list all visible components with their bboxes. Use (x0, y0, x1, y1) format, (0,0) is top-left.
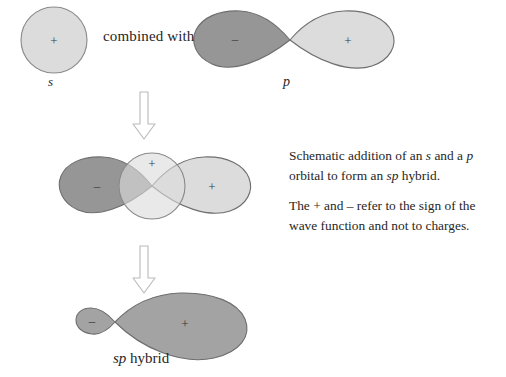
p-orbital-left-lobe (194, 11, 290, 67)
combined-with-label: combined with (103, 28, 195, 45)
sp-hybrid-minus-sign: – (88, 313, 96, 328)
description-italic-p: p (466, 148, 473, 163)
p-orbital-minus-sign: – (231, 31, 239, 46)
sp-hybrid-plus-sign: + (181, 316, 188, 331)
note-paragraph: The + and – refer to the sign of the wav… (289, 196, 504, 235)
combined-s-plus-sign: + (148, 156, 155, 171)
description-part3: orbital to form an (289, 168, 386, 183)
combined-orbital-group: + – + (59, 153, 250, 219)
description-part4: hybrid. (398, 168, 440, 183)
combined-plus-sign: + (208, 179, 215, 194)
p-orbital-right-lobe (290, 11, 394, 68)
s-orbital-plus-sign: + (50, 33, 57, 48)
s-orbital-caption: s (48, 74, 53, 90)
arrow-s-p-to-overlap (133, 92, 155, 139)
arrow-overlap-to-hybrid (133, 246, 155, 293)
sp-hybrid-small-lobe (76, 308, 115, 334)
sp-hybrid-caption-rest: hybrid (126, 350, 169, 366)
sp-hybrid-caption: sp hybrid (113, 350, 169, 367)
p-orbital-plus-sign: + (344, 33, 351, 48)
sp-hybrid-caption-italic: sp (113, 350, 126, 366)
description-paragraph: Schematic addition of an s and a p orbit… (289, 146, 504, 185)
description-italic-sp: sp (386, 168, 398, 183)
description-part1: Schematic addition of an (289, 148, 426, 163)
orbital-hybridization-diagram: + – + + – + – + (0, 0, 506, 377)
combined-minus-sign: – (93, 178, 101, 193)
p-orbital-caption: p (283, 74, 290, 90)
description-part2: and a (431, 148, 466, 163)
s-orbital-group: + (21, 7, 87, 73)
p-orbital-group: – + (194, 11, 394, 68)
